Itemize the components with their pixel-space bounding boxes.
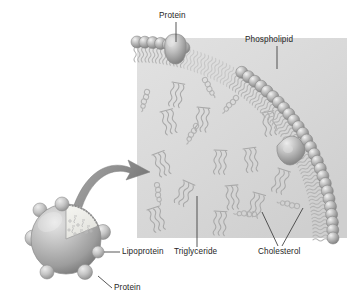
label-cholesterol: Cholesterol xyxy=(258,248,301,256)
lipoprotein-sphere xyxy=(25,197,111,280)
diagram-canvas xyxy=(0,0,347,308)
lipoprotein-diagram: Protein Phospholipid Lipoprotein Triglyc… xyxy=(0,0,347,308)
phospholipid-head xyxy=(327,232,339,244)
leader-protein-bottom xyxy=(98,276,112,288)
label-protein-top: Protein xyxy=(159,12,186,20)
label-triglyceride: Triglyceride xyxy=(174,248,217,256)
label-lipoprotein: Lipoprotein xyxy=(122,248,164,256)
label-phospholipid: Phospholipid xyxy=(245,36,293,44)
protein-embedded-top xyxy=(165,34,187,64)
label-protein-bottom: Protein xyxy=(114,284,141,292)
